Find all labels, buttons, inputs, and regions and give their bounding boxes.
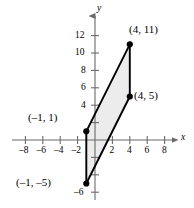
vertex-label-4-11: (4, 11) — [129, 24, 158, 35]
x-tick-label-neg2: –2 — [72, 146, 82, 156]
vertex-label-neg1-neg5: (–1, –5) — [16, 177, 51, 188]
vertex-point — [83, 180, 89, 186]
x-tick-label-neg6: –6 — [37, 146, 47, 156]
y-axis-label: y — [97, 4, 101, 14]
x-tick-label-8: 8 — [162, 146, 167, 156]
vertex-point — [127, 41, 133, 47]
x-tick-label-6: 6 — [145, 146, 150, 156]
y-tick-label-6: 6 — [81, 83, 86, 93]
vertex-point — [127, 93, 133, 99]
y-tick-label-4: 4 — [81, 101, 86, 111]
x-tick-label-4: 4 — [127, 146, 132, 156]
vertex-label-neg1-1: (–1, 1) — [28, 112, 57, 123]
x-tick-label-2: 2 — [110, 146, 115, 156]
y-tick-label-10: 10 — [75, 48, 85, 58]
vertex-label-4-5: (4, 5) — [134, 90, 158, 101]
coordinate-plane-figure: x y –8 –6 –4 –2 2 4 6 8 12 10 8 6 4 –6 (… — [0, 0, 194, 208]
y-tick-label-8: 8 — [81, 66, 86, 76]
y-tick-label-12: 12 — [75, 31, 85, 41]
x-tick-label-neg4: –4 — [54, 146, 64, 156]
x-axis-label: x — [181, 133, 185, 143]
y-tick-label-neg6: –6 — [74, 188, 84, 198]
x-tick-label-neg8: –8 — [19, 146, 29, 156]
parallelogram-fill — [86, 44, 130, 183]
vertex-point — [83, 128, 89, 134]
